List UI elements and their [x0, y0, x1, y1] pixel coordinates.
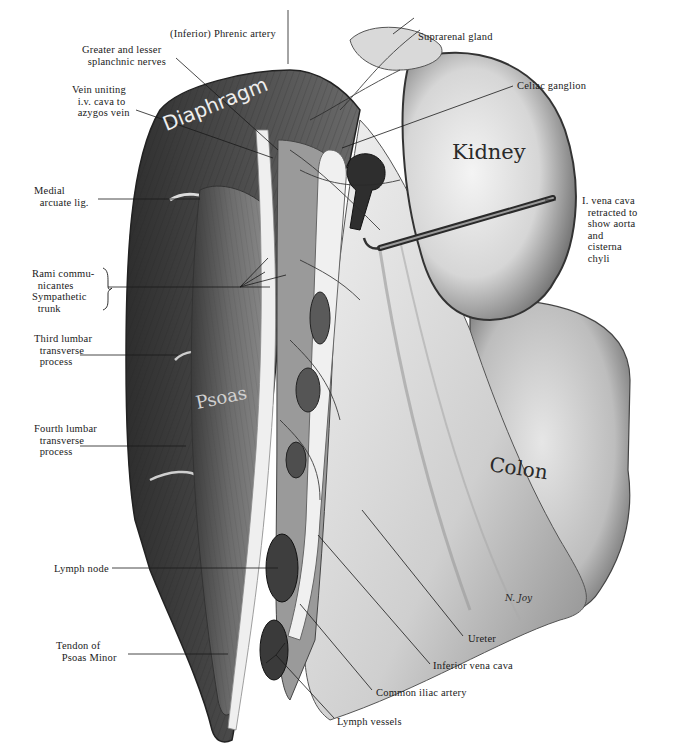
- label-fourth-lumbar: Fourth lumbar transverse process: [34, 423, 97, 458]
- label-rami-communicantes: Rami commu- nicantes Sympathetic trunk: [32, 268, 95, 314]
- label-celiac-ganglion: Celiac ganglion: [517, 80, 586, 92]
- artist-signature: N. Joy: [505, 593, 532, 603]
- label-ivc-retracted: I. vena cava retracted to show aorta and…: [582, 195, 638, 264]
- anatomy-figure: Diaphragm Kidney Psoas Colon N. Joy (Inf…: [0, 0, 678, 756]
- label-splanchnic-nerves: Greater and lesser splanchnic nerves: [82, 44, 166, 67]
- label-tendon-psoas-minor: Tendon of Psoas Minor: [56, 640, 117, 663]
- label-common-iliac-artery: Common iliac artery: [376, 687, 467, 699]
- label-medial-arcuate: Medial arcuate lig.: [34, 185, 89, 208]
- label-lymph-vessels: Lymph vessels: [337, 716, 402, 728]
- label-lymph-node: Lymph node: [54, 563, 109, 575]
- label-suprarenal-gland: Suprarenal gland: [418, 31, 493, 43]
- organ-label-kidney: Kidney: [452, 140, 526, 164]
- label-inferior-vena-cava: Inferior vena cava: [433, 660, 513, 672]
- label-vein-uniting: Vein uniting i.v. cava to azygos vein: [72, 84, 130, 119]
- label-phrenic-artery: (Inferior) Phrenic artery: [170, 28, 276, 40]
- label-third-lumbar: Third lumbar transverse process: [34, 333, 92, 368]
- label-ureter: Ureter: [468, 633, 496, 645]
